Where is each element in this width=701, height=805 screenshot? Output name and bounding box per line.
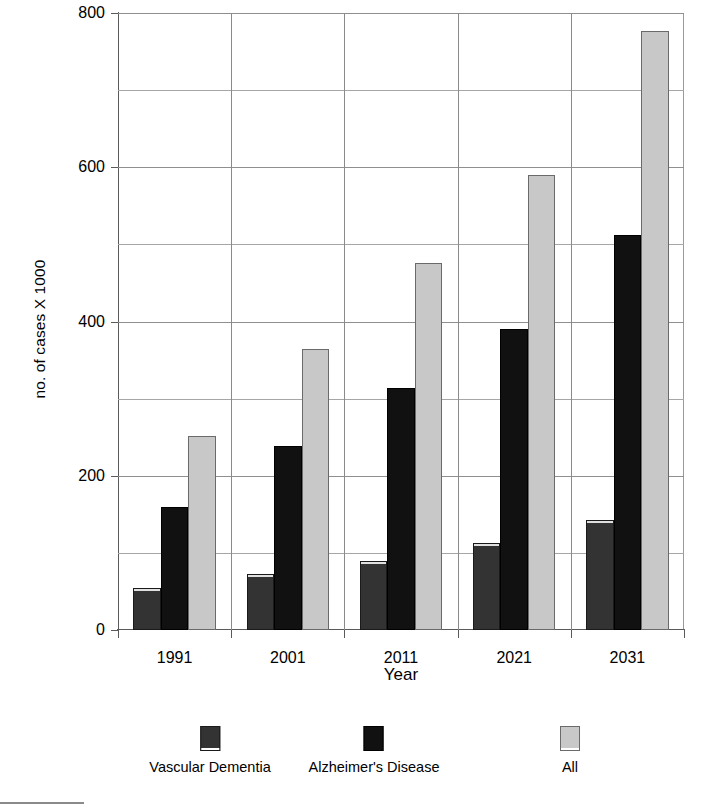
dark-gray-swatch (200, 726, 220, 751)
light-gray-swatch (560, 726, 580, 751)
bar-2031-all (641, 31, 669, 630)
y-tick-label-800: 800 (78, 4, 105, 22)
bar-1991-all (188, 436, 216, 630)
legend-label: Vascular Dementia (149, 759, 270, 775)
bar-1991-alzheimer-s-disease (161, 507, 189, 630)
y-tick-label-0: 0 (96, 621, 105, 639)
page-edge-line (0, 802, 84, 804)
legend-label: All (560, 759, 580, 775)
category-divider-1 (231, 13, 232, 630)
legend-label: Alzheimer's Disease (309, 759, 440, 775)
bar-2031-vascular-dementia (586, 520, 614, 630)
bar-2001-alzheimer-s-disease (274, 446, 302, 630)
y-axis-title: no. of cases X 1000 (31, 229, 49, 429)
bar-2001-vascular-dementia (247, 574, 275, 630)
bar-chart-figure: no. of cases X 1000 0200400600800 199120… (0, 0, 701, 805)
category-divider-3 (458, 13, 459, 630)
x-tick-3 (458, 630, 459, 638)
bar-1991-vascular-dementia (133, 588, 161, 630)
bar-2031-alzheimer-s-disease (614, 235, 642, 630)
y-tick-200 (111, 476, 118, 477)
plot-area: 0200400600800 19912001201120212031 (118, 13, 684, 630)
bar-2021-all (528, 175, 556, 630)
x-tick-2 (344, 630, 345, 638)
category-divider-2 (344, 13, 345, 630)
gridline-500 (118, 244, 684, 245)
bar-2011-vascular-dementia (360, 561, 388, 630)
gridline-700 (118, 90, 684, 91)
bar-2021-alzheimer-s-disease (500, 329, 528, 630)
bar-2011-alzheimer-s-disease (387, 388, 415, 630)
y-tick-600 (111, 167, 118, 168)
bar-2011-all (415, 263, 443, 630)
legend-item-alzheimer-s-disease[interactable]: Alzheimer's Disease (309, 726, 440, 775)
y-tick-label-400: 400 (78, 313, 105, 331)
x-tick-1 (231, 630, 232, 638)
y-tick-400 (111, 322, 118, 323)
black-swatch (364, 726, 384, 751)
x-axis-title: Year (118, 665, 684, 685)
gridline-800 (118, 13, 684, 14)
x-tick-5 (684, 630, 685, 638)
legend-item-vascular-dementia[interactable]: Vascular Dementia (149, 726, 270, 775)
x-tick-4 (571, 630, 572, 638)
y-tick-label-600: 600 (78, 158, 105, 176)
gridline-600 (118, 167, 684, 168)
y-tick-0 (111, 630, 118, 631)
bar-2021-vascular-dementia (473, 543, 501, 630)
gridline-400 (118, 322, 684, 323)
x-tick-0 (118, 630, 119, 638)
y-tick-label-200: 200 (78, 467, 105, 485)
legend-item-all[interactable]: All (560, 726, 580, 775)
category-divider-4 (571, 13, 572, 630)
y-tick-800 (111, 13, 118, 14)
bar-2001-all (302, 349, 330, 630)
chart-legend: Vascular DementiaAlzheimer's DiseaseAll (118, 726, 684, 796)
